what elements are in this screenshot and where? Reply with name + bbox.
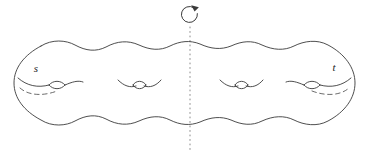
handle-4-hidden-arc [312, 88, 349, 94]
handle-3-seam-right [246, 80, 263, 87]
handle-2-seam-right [144, 80, 161, 87]
handle-1-hidden-arc [20, 88, 57, 94]
figure-canvas: s t [0, 0, 380, 155]
handle-4-seam [320, 78, 351, 86]
handle-4-hole-upper [304, 81, 320, 85]
handle-4-label: t [332, 61, 336, 73]
surface-boundary [14, 41, 355, 125]
handle-4-hole-lower [304, 85, 320, 89]
handle-1-seam-right [65, 81, 83, 85]
handle-1: s [18, 62, 83, 94]
handle-2 [118, 80, 161, 89]
handle-4: t [286, 61, 351, 94]
rotation-arrow-head [191, 5, 199, 11]
rotation-arrow-icon [181, 5, 198, 22]
handle-4-seam-left [286, 81, 304, 85]
topology-figure: s t [0, 0, 380, 155]
surface-outline-path [14, 41, 355, 125]
handle-1-hole-lower [49, 85, 65, 89]
handle-3-hole-upper [235, 81, 248, 85]
handle-1-hole-upper [49, 81, 65, 85]
handle-1-label: s [34, 62, 38, 74]
handle-1-seam [18, 78, 49, 86]
handle-2-hole-upper [133, 81, 146, 85]
handle-3 [220, 80, 263, 89]
